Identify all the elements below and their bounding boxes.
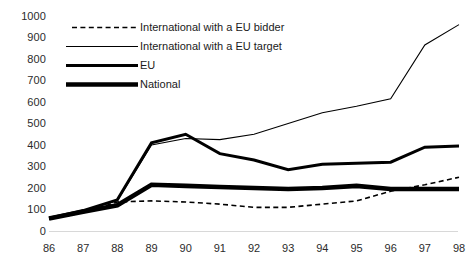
line-chart: 10009008007006005004003002001000 8687888… [0,0,466,266]
legend-item: National [66,75,346,94]
x-axis-tick-label: 97 [411,243,439,254]
x-axis-tick-label: 86 [35,243,63,254]
legend-swatch-icon [66,75,138,94]
x-axis-tick-label: 91 [206,243,234,254]
x-axis-tick-label: 92 [240,243,268,254]
x-axis-tick-label: 95 [343,243,371,254]
x-axis-tick-label: 87 [69,243,97,254]
legend-swatch-icon [66,37,138,56]
legend-swatch-icon [66,56,138,75]
legend-label: EU [140,59,155,72]
x-axis-tick-label: 89 [138,243,166,254]
x-axis-tick-label: 90 [172,243,200,254]
series-line [49,177,459,219]
legend-item: International with a EU target [66,37,346,56]
x-axis-tick-label: 93 [274,243,302,254]
legend-label: National [140,78,180,91]
chart-legend: International with a EU bidderInternatio… [66,18,346,94]
legend-label: International with a EU target [140,40,282,53]
legend-label: International with a EU bidder [140,21,284,34]
legend-item: International with a EU bidder [66,18,346,37]
x-axis-tick-label: 96 [377,243,405,254]
x-axis-tick-label: 94 [308,243,336,254]
legend-swatch-icon [66,18,138,37]
x-axis-baseline [49,231,458,232]
x-axis-tick-label: 88 [103,243,131,254]
legend-item: EU [66,56,346,75]
x-axis-tick-label: 98 [445,243,466,254]
